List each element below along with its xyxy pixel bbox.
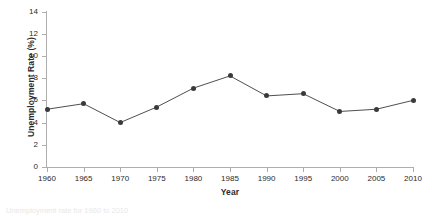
- chart-figure: Unemployment Rate (%) Year 02468101214 1…: [0, 0, 432, 216]
- data-point-1970: [118, 120, 123, 125]
- data-point-1980: [191, 86, 196, 91]
- figure-caption: Unemployment rate for 1960 to 2010: [6, 206, 128, 216]
- data-point-1995: [301, 91, 306, 96]
- data-point-1975: [154, 105, 159, 110]
- data-point-1985: [228, 73, 233, 78]
- series-line: [0, 0, 432, 216]
- data-point-1960: [45, 107, 50, 112]
- data-point-2010: [411, 98, 416, 103]
- data-point-2005: [374, 107, 379, 112]
